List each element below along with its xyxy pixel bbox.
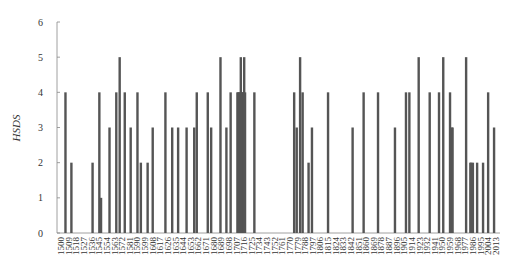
bar bbox=[362, 92, 364, 233]
bar bbox=[351, 128, 353, 234]
bar bbox=[299, 57, 301, 233]
bar bbox=[171, 128, 173, 234]
bar bbox=[124, 92, 126, 233]
bar bbox=[451, 128, 453, 234]
y-axis: 0123456 bbox=[38, 17, 60, 239]
bars bbox=[64, 57, 495, 233]
y-tick-label: 1 bbox=[38, 192, 43, 203]
y-axis-title: HSDS bbox=[10, 114, 22, 142]
bar bbox=[152, 128, 154, 234]
bar bbox=[482, 163, 484, 233]
bar bbox=[417, 57, 419, 233]
bar bbox=[327, 92, 329, 233]
bar bbox=[140, 163, 142, 233]
y-tick-label: 2 bbox=[38, 157, 43, 168]
y-tick-label: 3 bbox=[38, 122, 43, 133]
bar bbox=[311, 128, 313, 234]
bar bbox=[405, 92, 407, 233]
bar bbox=[487, 92, 489, 233]
bar bbox=[293, 92, 295, 233]
bar bbox=[136, 92, 138, 233]
bar bbox=[115, 92, 117, 233]
bar bbox=[196, 92, 198, 233]
y-tick-label: 6 bbox=[38, 17, 43, 28]
x-axis: 1500150915181527153615451554156315721581… bbox=[56, 233, 501, 255]
bar bbox=[100, 198, 102, 233]
bar bbox=[129, 128, 131, 234]
bar bbox=[476, 163, 478, 233]
y-tick-label: 5 bbox=[38, 52, 43, 63]
bar bbox=[394, 128, 396, 234]
bar bbox=[301, 92, 303, 233]
bar bbox=[91, 163, 93, 233]
bar bbox=[472, 163, 474, 233]
bar bbox=[465, 57, 467, 233]
bar bbox=[244, 92, 246, 233]
bar bbox=[185, 128, 187, 234]
bar bbox=[210, 128, 212, 234]
y-tick-label: 4 bbox=[38, 87, 43, 98]
y-tick-label: 0 bbox=[38, 228, 43, 239]
bar bbox=[307, 163, 309, 233]
bar bbox=[164, 92, 166, 233]
bar bbox=[118, 57, 120, 233]
bar bbox=[442, 57, 444, 233]
bar bbox=[408, 92, 410, 233]
bar bbox=[377, 92, 379, 233]
x-tick-label: 2013 bbox=[491, 237, 501, 256]
bar bbox=[219, 57, 221, 233]
bar bbox=[428, 92, 430, 233]
bar bbox=[253, 92, 255, 233]
bar bbox=[296, 128, 298, 234]
bar bbox=[146, 163, 148, 233]
bar bbox=[64, 92, 66, 233]
bar bbox=[177, 128, 179, 234]
bar bbox=[438, 92, 440, 233]
bar bbox=[193, 128, 195, 234]
bar bbox=[225, 128, 227, 234]
hsds-bar-chart: 0123456 15001509151815271536154515541563… bbox=[0, 0, 518, 270]
bar bbox=[229, 92, 231, 233]
bar bbox=[207, 92, 209, 233]
bar bbox=[70, 163, 72, 233]
bar bbox=[493, 128, 495, 234]
bar bbox=[108, 128, 110, 234]
